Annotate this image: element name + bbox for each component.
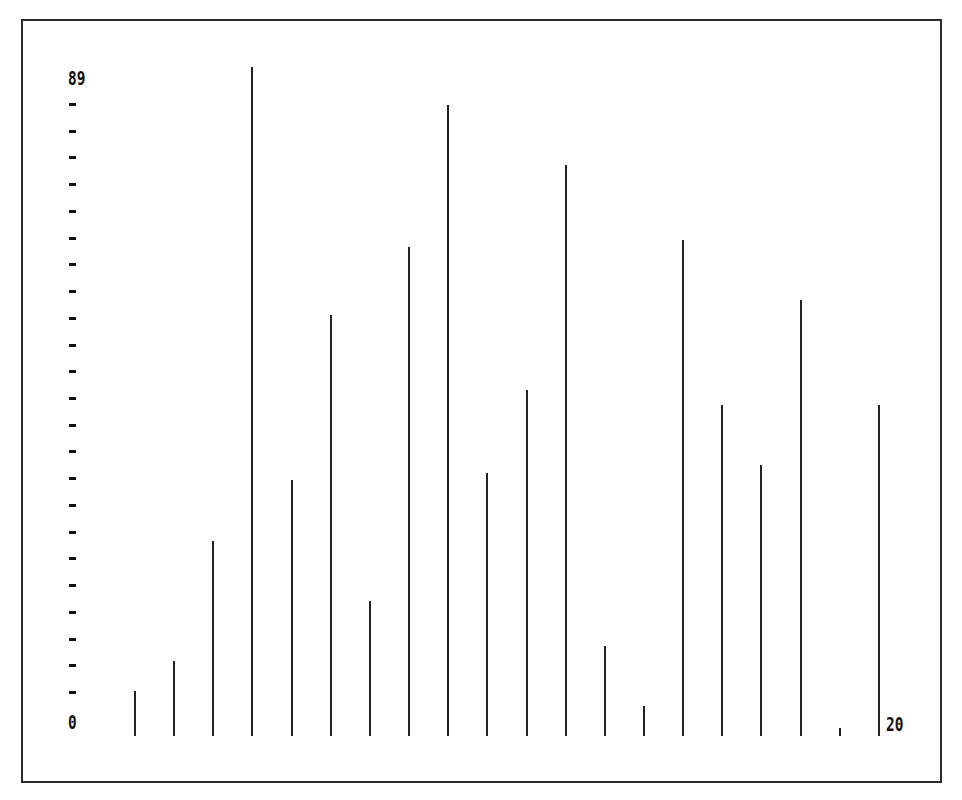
y-axis-tick <box>69 450 76 453</box>
y-axis-tick <box>69 156 76 159</box>
bar-5 <box>291 480 293 736</box>
bar-8 <box>408 247 410 736</box>
bar-18 <box>800 300 802 736</box>
bar-10 <box>486 473 488 736</box>
y-axis-max-label: 89 <box>68 68 85 88</box>
y-axis-tick <box>69 370 76 373</box>
y-axis-tick <box>69 210 76 213</box>
bar-7 <box>369 601 371 736</box>
y-axis-tick <box>69 424 76 427</box>
plot-area: 89 0 20 <box>0 0 962 800</box>
y-axis-tick <box>69 317 76 320</box>
bar-14 <box>643 706 645 736</box>
y-axis-min-label: 0 <box>68 712 77 732</box>
y-axis-tick <box>69 504 76 507</box>
bar-6 <box>330 315 332 736</box>
y-axis-tick <box>69 557 76 560</box>
y-axis-tick <box>69 531 76 534</box>
bar-4 <box>251 67 253 736</box>
bar-20 <box>878 405 880 736</box>
bar-17 <box>760 465 762 736</box>
y-axis-tick <box>69 237 76 240</box>
y-axis-tick <box>69 130 76 133</box>
bar-16 <box>721 405 723 736</box>
y-axis-tick <box>69 611 76 614</box>
y-axis-tick <box>69 263 76 266</box>
y-axis-tick <box>69 691 76 694</box>
y-axis-tick <box>69 103 76 106</box>
x-axis-max-label: 20 <box>886 714 903 734</box>
bar-19 <box>839 728 841 736</box>
y-axis-tick <box>69 638 76 641</box>
y-axis-tick <box>69 344 76 347</box>
bar-2 <box>173 661 175 736</box>
bar-1 <box>134 691 136 736</box>
bar-3 <box>212 541 214 736</box>
y-axis-tick <box>69 183 76 186</box>
y-axis-tick <box>69 397 76 400</box>
bar-12 <box>565 165 567 736</box>
bar-11 <box>526 390 528 736</box>
y-axis-tick <box>69 290 76 293</box>
bar-9 <box>447 105 449 736</box>
y-axis-tick <box>69 477 76 480</box>
bar-15 <box>682 240 684 736</box>
y-axis-tick <box>69 584 76 587</box>
y-axis-tick <box>69 664 76 667</box>
bar-13 <box>604 646 606 736</box>
